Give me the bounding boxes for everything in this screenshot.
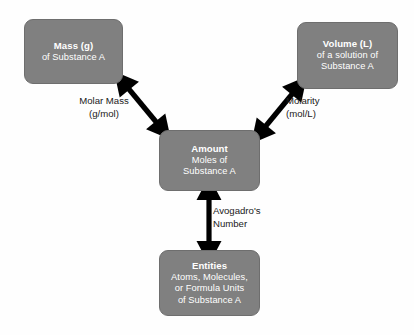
node-mass-line2: of Substance A: [42, 52, 105, 63]
node-entities-title: Entities: [192, 260, 227, 272]
node-entities-line4: of Substance A: [178, 295, 241, 306]
node-entities-line2: Atoms, Molecules,: [171, 272, 248, 283]
edge-label-molar-mass: Molar Mass (g/mol): [62, 95, 146, 120]
edge-label-avogadro-line2: Number: [213, 218, 297, 231]
edge-label-avogadro: Avogadro's Number: [213, 205, 297, 230]
node-amount-line3: Substance A: [183, 166, 236, 177]
mole-concept-diagram: Mass (g) of Substance A Volume (L) of a …: [0, 0, 414, 335]
node-entities: Entities Atoms, Molecules, or Formula Un…: [159, 250, 260, 316]
node-volume-title: Volume (L): [323, 38, 372, 50]
node-mass: Mass (g) of Substance A: [24, 19, 123, 84]
edge-label-molarity-line1: Molarity: [286, 95, 370, 108]
node-volume-line2: of a solution of: [317, 50, 378, 61]
edge-label-molarity-line2: (mol/L): [286, 108, 370, 121]
edge-label-molar-mass-line1: Molar Mass: [62, 95, 146, 108]
node-mass-title: Mass (g): [54, 40, 93, 52]
node-amount-title: Amount: [191, 143, 228, 155]
node-volume-line3: Substance A: [321, 61, 374, 72]
node-amount: Amount Moles of Substance A: [159, 130, 260, 191]
node-volume: Volume (L) of a solution of Substance A: [297, 22, 398, 89]
node-amount-line2: Moles of: [192, 155, 228, 166]
edge-label-avogadro-line1: Avogadro's: [213, 205, 297, 218]
edge-label-molar-mass-line2: (g/mol): [62, 108, 146, 121]
node-entities-line3: or Formula Units: [175, 283, 245, 294]
edge-label-molarity: Molarity (mol/L): [286, 95, 370, 120]
